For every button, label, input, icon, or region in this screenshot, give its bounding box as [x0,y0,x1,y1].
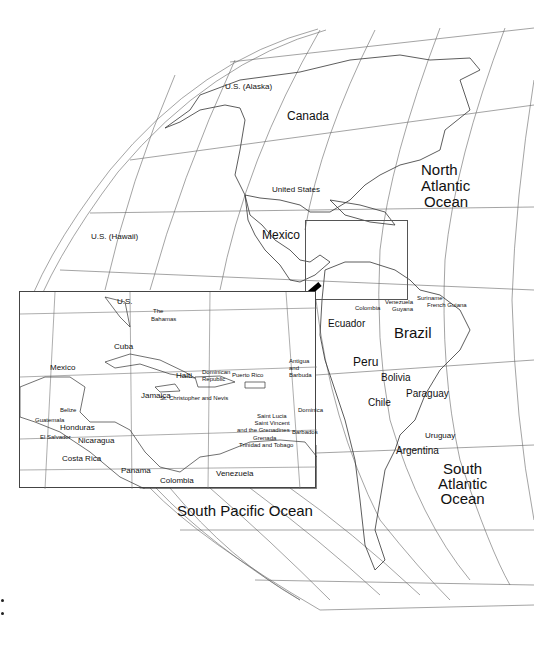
label-line: Atlantic [438,476,487,491]
label-line: North [421,162,470,178]
label-line: and [289,365,312,372]
inset-label-barbados: Barbados [292,429,318,435]
label-north-atlantic-ocean: North Atlantic Ocean [421,162,470,210]
label-line: Atlantic [421,178,470,194]
label-venezuela: Venezuela [385,299,413,305]
label-argentina: Argentina [396,446,439,456]
inset-label-honduras: Honduras [60,424,95,432]
label-bolivia: Bolivia [381,373,410,383]
label-suriname: Suriname [417,295,443,301]
label-line: Ocean [438,491,487,506]
label-ecuador: Ecuador [328,319,365,329]
label-line: Republic [202,376,230,383]
label-peru: Peru [353,356,378,368]
label-line: Dominican [202,369,230,376]
margin-dot [1,612,4,615]
label-mexico: Mexico [262,229,300,241]
caribbean-inset-map: U.S. The Bahamas Cuba Mexico Haiti Domin… [19,291,316,488]
inset-label-dominica: Dominica [298,407,323,413]
inset-label-puerto-rico: Puerto Rico [232,372,263,378]
inset-label-bahamas: The Bahamas [151,307,176,323]
inset-label-trinidad-tobago: Trinidad and Tobago [239,442,293,448]
label-line: Barbuda [289,372,312,379]
label-alaska: U.S. (Alaska) [225,83,272,91]
inset-label-nicaragua: Nicaragua [78,437,114,445]
inset-label-us: U.S. [117,298,133,306]
inset-label-antigua-barbuda: Antigua and Barbuda [289,358,312,379]
label-line: The [151,307,176,315]
inset-label-jamaica: Jamaica [141,392,171,400]
inset-label-costa-rica: Costa Rica [62,455,101,463]
inset-label-saint-vincent-grenadines: Saint Vincent and the Grenadines [237,420,290,434]
label-south-pacific-ocean: South Pacific Ocean [177,503,313,518]
label-line: Ocean [421,194,470,210]
inset-label-colombia: Colombia [160,477,194,485]
label-guyana: Guyana [392,306,413,312]
inset-label-panama: Panama [121,467,151,475]
label-colombia: Colombia [355,305,380,311]
label-paraguay: Paraguay [406,389,449,399]
inset-label-belize: Belize [60,407,76,413]
label-line: Bahamas [151,315,176,323]
label-line: Antigua [289,358,312,365]
label-french-guiana: French Guiana [427,302,467,308]
margin-dot [1,599,4,602]
inset-label-mexico: Mexico [50,364,75,372]
inset-label-dominican-republic: Dominican Republic [202,369,230,383]
inset-label-el-salvador: El Salvador [40,434,71,440]
label-south-atlantic-ocean: South Atlantic Ocean [438,461,487,506]
label-canada: Canada [287,110,329,122]
inset-label-grenada: Grenada [253,435,276,441]
label-hawaii: U.S. (Hawaii) [91,233,138,241]
label-united-states: United States [272,186,320,194]
label-uruguay: Uruguay [425,432,455,440]
label-line: South [438,461,487,476]
inset-label-haiti: Haiti [176,372,192,380]
label-line: Saint Vincent [237,420,290,427]
inset-label-cuba: Cuba [114,343,133,351]
label-line: and the Grenadines [237,427,290,434]
inset-label-saint-lucia: Saint Lucia [257,413,287,419]
label-brazil: Brazil [394,325,432,340]
label-chile: Chile [368,398,391,408]
inset-label-venezuela: Venezuela [216,470,253,478]
